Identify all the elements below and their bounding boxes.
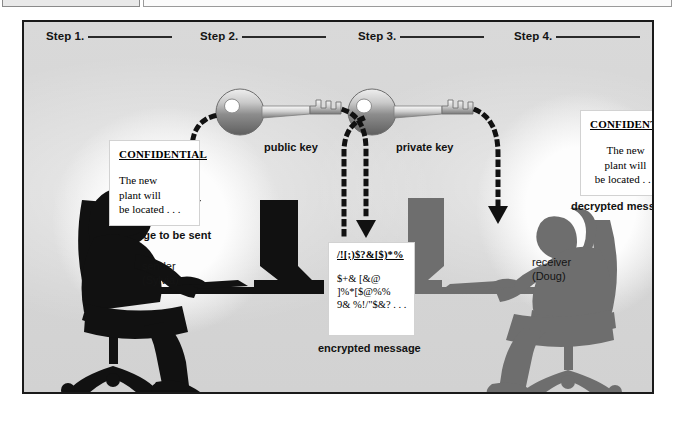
sender-shoe <box>151 381 208 394</box>
arrow-path-to-private-key <box>344 118 364 234</box>
receiver-card-line-3: be located . . . <box>590 172 654 187</box>
receiver-card-heading: CONFIDENTIAL <box>590 118 654 130</box>
chrome-panel-left <box>2 0 140 7</box>
arrowhead-receiver-monitor <box>488 206 508 224</box>
decrypted-message-caption: decrypted message <box>571 200 654 212</box>
sender-message-card: CONFIDENTIAL The new plant will be locat… <box>109 140 200 226</box>
private-key-icon <box>348 89 473 135</box>
receiver-scene <box>394 198 622 394</box>
sender-card-heading: CONFIDENTIAL <box>119 148 199 160</box>
public-key-icon <box>216 89 341 135</box>
receiver-label: receiver (Doug) <box>532 255 571 283</box>
sender-caster-2 <box>106 373 120 387</box>
receiver-role: receiver <box>532 255 571 269</box>
message-to-be-sent-caption: message to be sent <box>109 229 211 241</box>
private-key-label: private key <box>396 141 453 153</box>
top-chrome-strip <box>0 0 674 9</box>
encrypted-card-line-2: ]%*[$@%% <box>337 285 414 298</box>
receiver-card-body: The new plant will be located . . . <box>590 143 654 187</box>
arrow-path-to-receiver-monitor <box>476 110 498 204</box>
decrypted-message-card: CONFIDENTIAL The new plant will be locat… <box>580 110 654 196</box>
public-key-label: public key <box>264 141 318 153</box>
sender-card-line-2: plant will <box>119 188 199 203</box>
encryption-diagram: Step 1. Step 2. Step 3. Step 4. <box>22 20 654 394</box>
sender-card-body: The new plant will be located . . . <box>119 173 199 217</box>
sender-card-line-1: The new <box>119 173 199 188</box>
encrypted-card-body: $+& [&@ ]%*[$@%% 9& %!/"$&? . . . <box>337 272 414 311</box>
receiver-card-line-1: The new <box>590 143 654 158</box>
arrowhead-encrypted <box>356 220 376 238</box>
sender-role: sender <box>142 259 179 273</box>
encrypted-card-line-1: $+& [&@ <box>337 272 414 285</box>
sender-caster-1 <box>61 383 75 394</box>
encrypted-card-heading: /![;)$?&[$)*% <box>337 249 414 260</box>
sender-card-line-3: be located . . . <box>119 202 199 217</box>
encrypted-card-line-3: 9& %!/"$&? . . . <box>337 298 414 311</box>
chrome-panel-right <box>143 0 672 7</box>
receiver-name: (Doug) <box>532 269 571 283</box>
encrypted-message-card: /![;)$?&[$)*% $+& [&@ ]%*[$@%% 9& %!/"$&… <box>328 242 415 336</box>
receiver-card-line-2: plant will <box>590 158 654 173</box>
sender-name: (Sylvia) <box>142 273 179 287</box>
receiver-caster-3 <box>608 385 622 394</box>
receiver-caster-2 <box>561 375 575 389</box>
sender-monitor <box>260 200 312 280</box>
sender-label: sender (Sylvia) <box>142 259 179 287</box>
encrypted-message-caption: encrypted message <box>318 342 421 354</box>
